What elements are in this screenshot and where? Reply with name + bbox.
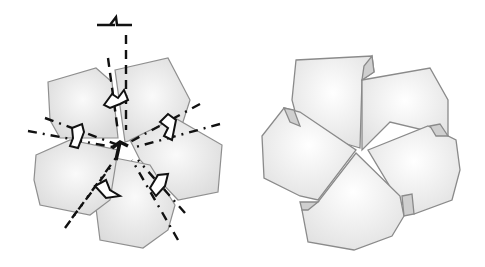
fold-step-panel xyxy=(28,17,222,248)
result-panel xyxy=(262,56,460,250)
diagram-canvas xyxy=(0,0,485,267)
petals xyxy=(34,58,222,248)
zigzag-symbol xyxy=(97,17,132,25)
